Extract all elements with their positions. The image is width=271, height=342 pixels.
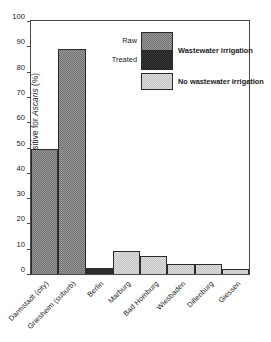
x-label-slot: Berlin — [85, 277, 113, 339]
legend-label-wastewater-irrigation: Wastewater irrigation — [178, 47, 253, 54]
figure: Stool samples positive for Ascaris (%) 0… — [0, 0, 271, 342]
plot-area: Stool samples positive for Ascaris (%) 0… — [30, 20, 250, 275]
x-axis-label: Berlin — [85, 279, 105, 299]
x-label-slot: Griesheim (suburb) — [58, 277, 86, 339]
legend-swatch-treated — [141, 51, 173, 70]
x-axis-labels: Darmstadt (city)Griesheim (suburb)Berlin… — [30, 277, 250, 339]
legend-label-raw: Raw — [93, 37, 137, 44]
legend-swatch-no-wastewater — [141, 73, 173, 90]
legend-swatch-raw — [141, 32, 173, 51]
figure-caption — [6, 332, 265, 341]
legend: Raw Treated Wastewater irrigation No was… — [31, 21, 249, 274]
legend-label-treated: Treated — [93, 56, 137, 63]
y-tick-mark — [27, 274, 31, 275]
x-label-slot: Dillenburg — [195, 277, 223, 339]
x-label-slot: Giessen — [223, 277, 251, 339]
legend-label-no-wastewater-irrigation: No wastewater irrigation — [178, 78, 264, 85]
